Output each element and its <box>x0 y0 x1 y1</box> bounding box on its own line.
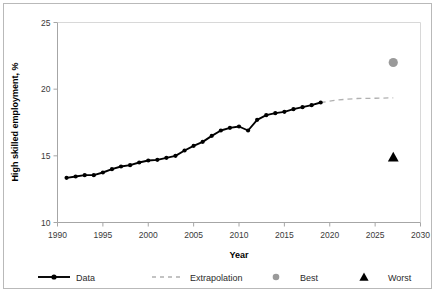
data-point <box>210 134 214 138</box>
data-point <box>83 173 87 177</box>
data-point <box>128 163 132 167</box>
legend-item-best: Best <box>273 273 319 283</box>
legend-label: Best <box>300 273 319 283</box>
y-tick-label: 10 <box>41 218 51 228</box>
series-extrapolation <box>321 98 394 103</box>
data-point <box>255 118 259 122</box>
series-worst-marker <box>388 152 399 162</box>
data-point <box>110 167 114 171</box>
legend-label: Data <box>76 273 95 283</box>
data-point <box>119 164 123 168</box>
legend-item-data: Data <box>38 273 95 283</box>
data-point <box>164 156 168 160</box>
extrapolation-line <box>321 98 394 103</box>
legend-label: Extrapolation <box>190 273 243 283</box>
x-tick-label: 2010 <box>230 230 249 240</box>
data-point <box>146 158 150 162</box>
data-point <box>319 100 323 104</box>
data-point <box>237 124 241 128</box>
data-point <box>74 174 78 178</box>
x-axis-ticks <box>58 223 421 227</box>
y-axis-title: High skilled employment, % <box>10 62 20 181</box>
series-data <box>64 100 322 180</box>
x-tick-label: 1995 <box>93 230 112 240</box>
data-point <box>155 158 159 162</box>
data-point <box>182 148 186 152</box>
x-tick-label: 1990 <box>48 230 67 240</box>
data-point <box>101 170 105 174</box>
high-skilled-employment-chart: 199019952000200520102015202020252030 101… <box>0 0 436 293</box>
data-point <box>92 173 96 177</box>
data-point <box>273 111 277 115</box>
legend-item-worst: Worst <box>359 272 411 282</box>
y-tick-label: 20 <box>41 84 51 94</box>
data-point <box>291 107 295 111</box>
data-point <box>282 110 286 114</box>
data-point <box>264 113 268 117</box>
data-point <box>246 128 250 132</box>
y-tick-label: 15 <box>41 151 51 161</box>
data-point <box>64 176 68 180</box>
x-axis-tick-labels: 199019952000200520102015202020252030 <box>48 230 430 240</box>
worst-marker <box>388 152 399 162</box>
legend-triangle-icon <box>359 272 368 280</box>
data-point <box>201 140 205 144</box>
x-tick-label: 2030 <box>411 230 430 240</box>
legend-circle-icon <box>273 274 280 281</box>
data-line <box>67 103 321 178</box>
y-tick-label: 25 <box>41 18 51 28</box>
data-point <box>173 154 177 158</box>
x-tick-label: 2015 <box>275 230 294 240</box>
x-tick-label: 2020 <box>320 230 339 240</box>
chart-legend: DataExtrapolationBestWorst <box>38 272 412 282</box>
data-point <box>137 160 141 164</box>
x-axis-title: Year <box>229 250 249 260</box>
legend-label: Worst <box>388 273 412 283</box>
x-tick-label: 2005 <box>184 230 203 240</box>
series-best-marker <box>389 58 398 67</box>
plot-frame <box>58 23 421 223</box>
x-tick-label: 2000 <box>139 230 158 240</box>
chart-figure: 199019952000200520102015202020252030 101… <box>0 0 436 293</box>
data-point <box>228 126 232 130</box>
best-marker <box>389 58 398 67</box>
y-axis-ticks <box>54 23 58 223</box>
y-axis-tick-labels: 10152025 <box>41 18 51 228</box>
data-point <box>219 128 223 132</box>
data-point <box>310 103 314 107</box>
x-tick-label: 2025 <box>366 230 385 240</box>
legend-item-extrapolation: Extrapolation <box>152 273 243 283</box>
legend-dot-icon <box>51 274 56 279</box>
data-point <box>192 144 196 148</box>
data-point <box>300 105 304 109</box>
